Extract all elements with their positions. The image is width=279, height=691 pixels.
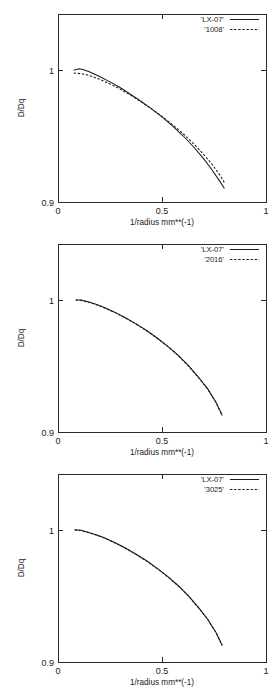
legend-label-0: 'LX-07' (201, 15, 225, 24)
x-tick-label-0: 0 (55, 436, 60, 446)
y-tick-label-0: 0.9 (41, 428, 54, 438)
legend-label-1: '3025' (204, 485, 224, 494)
multi-panel-figure: 1 0.9 0 0.5 1 1/radius mm**(-1) D/Dq 'LX… (0, 0, 279, 691)
legend-1: 'LX-07' '1008' (201, 15, 259, 34)
plot-frame (58, 474, 266, 662)
y-tick-label-1: 1 (49, 66, 54, 76)
x-tick-label-mid: 0.5 (156, 206, 169, 216)
plot-frame (58, 14, 266, 202)
series-line-sample (74, 73, 225, 183)
series-line-sample (76, 300, 223, 415)
y-tick-label-1: 1 (49, 296, 54, 306)
x-axis-title: 1/radius mm**(-1) (130, 678, 194, 687)
series-line-lx07 (74, 69, 225, 189)
legend-label-1: '1008' (204, 25, 224, 34)
chart-svg-1: 1 0.9 0 0.5 1 1/radius mm**(-1) D/Dq 'LX… (0, 0, 279, 230)
legend-3: 'LX-07' '3025' (201, 475, 259, 494)
x-tick-label-0: 0 (55, 206, 60, 216)
x-tick-label-max: 1 (263, 436, 268, 446)
x-tick-label-max: 1 (263, 666, 268, 676)
chart-panel-2: 1 0.9 0 0.5 1 1/radius mm**(-1) D/Dq 'LX… (0, 230, 279, 460)
series-line-lx07 (75, 530, 223, 646)
y-axis-title: D/Dq (17, 98, 26, 117)
series-line-sample (75, 530, 223, 646)
x-tick-label-max: 1 (263, 206, 268, 216)
chart-svg-3: 1 0.9 0 0.5 1 1/radius mm**(-1) D/Dq 'LX… (0, 460, 279, 691)
legend-2: 'LX-07' '2016' (201, 245, 259, 264)
x-tick-label-0: 0 (55, 666, 60, 676)
y-axis-title: D/Dq (17, 328, 26, 347)
chart-panel-3: 1 0.9 0 0.5 1 1/radius mm**(-1) D/Dq 'LX… (0, 460, 279, 690)
chart-svg-2: 1 0.9 0 0.5 1 1/radius mm**(-1) D/Dq 'LX… (0, 230, 279, 460)
x-axis-title: 1/radius mm**(-1) (130, 218, 194, 227)
x-tick-label-mid: 0.5 (156, 436, 169, 446)
chart-panel-1: 1 0.9 0 0.5 1 1/radius mm**(-1) D/Dq 'LX… (0, 0, 279, 230)
y-tick-label-0: 0.9 (41, 658, 54, 668)
legend-label-1: '2016' (204, 255, 224, 264)
legend-label-0: 'LX-07' (201, 475, 225, 484)
x-axis-title: 1/radius mm**(-1) (130, 448, 194, 457)
y-axis-title: D/Dq (17, 558, 26, 577)
plot-frame (58, 244, 266, 432)
x-tick-label-mid: 0.5 (156, 666, 169, 676)
y-tick-label-0: 0.9 (41, 198, 54, 208)
y-tick-label-1: 1 (49, 526, 54, 536)
legend-label-0: 'LX-07' (201, 245, 225, 254)
series-line-lx07 (76, 300, 223, 415)
